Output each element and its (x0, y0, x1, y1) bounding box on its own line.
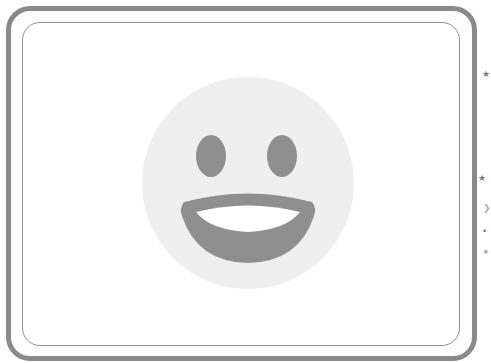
star-mark-icon: ★ (478, 174, 486, 183)
grinning-face-icon (141, 75, 355, 291)
star-mark-icon: ★ (482, 70, 490, 79)
left-eye (196, 135, 226, 177)
sparkle-mark-icon: ✦ (482, 248, 490, 257)
right-eye (267, 135, 297, 177)
dot-mark-icon: • (482, 227, 487, 236)
chevron-mark-icon: ❯ (483, 204, 491, 213)
